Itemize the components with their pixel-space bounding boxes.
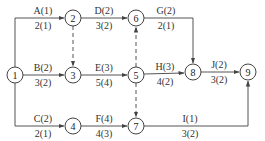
activity-i-top: I(1): [183, 113, 198, 125]
activity-h-bottom: 4(2): [157, 76, 174, 88]
node-7-label: 7: [134, 121, 139, 132]
activity-j-top: J(2): [211, 59, 227, 71]
activity-d-bottom: 3(2): [96, 20, 113, 32]
activity-i-bottom: 3(2): [182, 128, 199, 140]
activity-a-top: A(1): [34, 5, 53, 17]
activity-j-bottom: 3(2): [211, 74, 228, 86]
node-4-label: 4: [71, 121, 76, 132]
node-9-label: 9: [246, 67, 251, 78]
activity-b-top: B(2): [34, 62, 52, 74]
activity-arrow-h: [144, 73, 184, 74]
activity-d-top: D(2): [95, 5, 114, 17]
activity-h-top: H(3): [156, 61, 175, 73]
node-2-label: 2: [71, 13, 76, 24]
network-diagram: 1 2 3 4 5 6 7 8 9 A(1) 2(1) B(2) 3(2) C(…: [0, 0, 265, 141]
node-1-label: 1: [13, 70, 18, 81]
activity-e-top: E(3): [95, 62, 113, 74]
activity-c-top: C(2): [34, 113, 52, 125]
node-5-label: 5: [134, 70, 139, 81]
activity-f-bottom: 4(3): [96, 128, 113, 140]
activity-a-bottom: 2(1): [35, 20, 52, 32]
node-3-label: 3: [71, 70, 76, 81]
activity-e-bottom: 5(4): [96, 77, 113, 89]
activity-c-bottom: 2(1): [35, 128, 52, 140]
node-8-label: 8: [191, 67, 196, 78]
activity-b-bottom: 3(2): [35, 77, 52, 89]
activity-g-top: G(2): [157, 5, 176, 17]
activity-g-bottom: 2(1): [158, 20, 175, 32]
activity-f-top: F(4): [95, 113, 112, 125]
node-6-label: 6: [134, 13, 139, 24]
